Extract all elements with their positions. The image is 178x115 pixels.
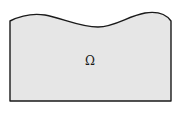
domain-label: Ω (85, 54, 95, 68)
domain-figure: Ω (0, 0, 178, 115)
domain-diagram: Ω (0, 0, 178, 115)
